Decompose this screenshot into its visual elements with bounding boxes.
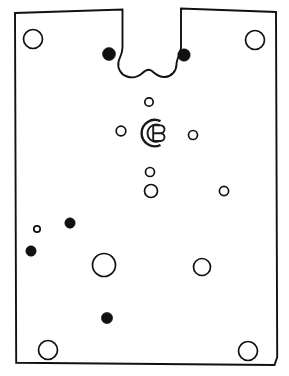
hole-lower-center-large: [93, 254, 116, 277]
hole-left-tiny: [34, 226, 40, 232]
pin-left-lower: [26, 246, 36, 256]
hole-center-below-small: [146, 168, 155, 177]
pin-left-upper: [65, 218, 75, 228]
hole-center-right-small: [189, 131, 198, 140]
hole-center-top-small: [145, 98, 153, 106]
hole-top-right-corner: [246, 31, 265, 50]
pin-top-left: [103, 48, 116, 61]
hole-bottom-left-corner: [39, 341, 58, 360]
panel-diagram: B: [0, 0, 289, 376]
hole-bottom-right-corner: [239, 342, 258, 361]
hole-right-mid-small: [219, 186, 228, 195]
hole-top-left-corner: [24, 30, 43, 49]
hole-center-left-small: [116, 126, 126, 136]
hole-center-below-medium: [145, 185, 158, 198]
pin-bottom-center: [101, 312, 112, 323]
drawing-canvas: B: [0, 0, 289, 376]
hole-lower-right-medium: [194, 259, 211, 276]
pin-top-right: [178, 49, 190, 61]
